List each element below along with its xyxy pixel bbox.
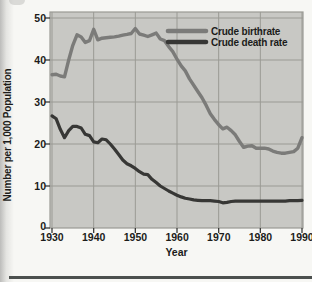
y-tick-label: 40 xyxy=(34,54,46,66)
y-tick-label: 10 xyxy=(34,180,46,192)
x-tick-label: 1990 xyxy=(290,231,312,243)
x-tick-label: 1930 xyxy=(40,231,64,243)
y-tick-label: 20 xyxy=(34,138,46,150)
demographic-transition-chart: 0 10 20 30 40 50 1930 1940 1950 1960 197… xyxy=(0,0,312,282)
legend-deathrate-label: Crude death rate xyxy=(211,37,288,48)
x-tick-label: 1970 xyxy=(207,231,231,243)
x-tick-label: 1980 xyxy=(249,231,273,243)
page-divider-rule xyxy=(9,276,312,279)
y-axis-title: Number per 1,000 Population xyxy=(2,68,13,201)
y-tick-label: 30 xyxy=(34,96,46,108)
x-tick-label: 1950 xyxy=(124,231,148,243)
y-tick-label: 50 xyxy=(34,12,46,24)
x-axis-title: Year xyxy=(165,246,187,258)
x-tick-label: 1960 xyxy=(165,231,189,243)
figure-page: 0 10 20 30 40 50 1930 1940 1950 1960 197… xyxy=(0,0,312,282)
legend-birthrate-label: Crude birthrate xyxy=(211,26,281,37)
x-tick-label: 1940 xyxy=(82,231,106,243)
